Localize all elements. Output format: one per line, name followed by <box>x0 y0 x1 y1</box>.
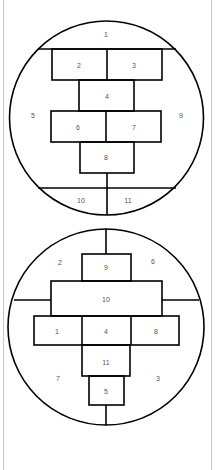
region-label: 8 <box>104 154 108 161</box>
region-label: 7 <box>132 124 136 131</box>
region-label: 10 <box>77 197 85 204</box>
region-label: 3 <box>132 62 136 69</box>
region-label: 2 <box>58 259 62 266</box>
circle-bottom <box>8 229 204 425</box>
circle-top <box>10 21 204 215</box>
region-label: 6 <box>151 258 155 265</box>
hopscotch-diagram: 1 2 3 4 5 6 7 8 9 10 11 2 6 9 10 1 4 8 1… <box>0 0 215 470</box>
region-label: 8 <box>154 328 158 335</box>
region-label: 11 <box>102 359 109 366</box>
region-label: 4 <box>104 328 108 335</box>
circle-bottom-outline <box>8 229 204 425</box>
region-label: 9 <box>104 264 108 271</box>
region-label: 2 <box>77 62 81 69</box>
region-label: 11 <box>124 197 131 204</box>
region-label: 9 <box>179 112 183 119</box>
region-label: 3 <box>156 375 160 382</box>
circle-bottom-labels: 2 6 9 10 1 4 8 11 7 3 5 <box>55 258 160 395</box>
region-label: 1 <box>55 328 59 335</box>
region-label: 4 <box>105 93 109 100</box>
region-label: 6 <box>76 124 80 131</box>
region-label: 7 <box>56 375 60 382</box>
region-label: 5 <box>104 388 108 395</box>
region-label: 10 <box>102 296 110 303</box>
region-label: 5 <box>31 112 35 119</box>
region-label: 1 <box>104 31 108 38</box>
